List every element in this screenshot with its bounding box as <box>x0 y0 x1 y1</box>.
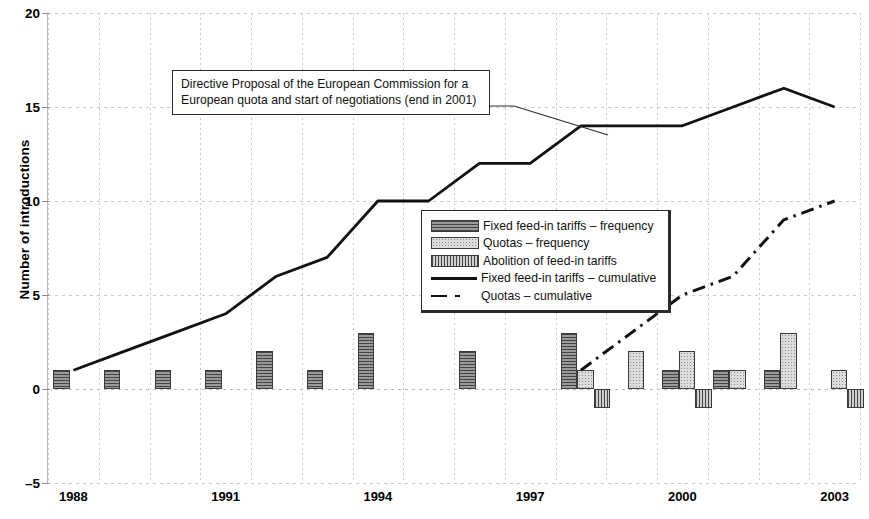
gridline-x-16 <box>860 13 861 483</box>
legend-label-abol: Abolition of feed-in tariffs <box>483 254 617 268</box>
y-tick-label--5: –5 <box>4 476 40 491</box>
y-tick-mark--5 <box>42 483 49 484</box>
x-tick-label-1997: 1997 <box>516 489 545 504</box>
legend-item-dashdot: Quotas – cumulative <box>431 287 660 305</box>
legend-item-quota: Quotas – frequency <box>431 235 660 253</box>
annotation-leader-line <box>490 104 610 138</box>
gridline-y--5 <box>48 483 860 484</box>
legend-label-dashdot: Quotas – cumulative <box>481 289 592 303</box>
legend-swatch-solid-icon <box>431 273 477 283</box>
x-tick-label-2003: 2003 <box>820 489 849 504</box>
y-axis-title: Number of introductions <box>17 130 32 310</box>
legend-swatch-fixed-icon <box>431 220 479 232</box>
y-tick-label-10: 10 <box>4 194 40 209</box>
annotation-line-2: European quota and start of negotiations… <box>181 92 482 108</box>
legend-swatch-dashdot-icon <box>431 291 477 301</box>
annotation-box: Directive Proposal of the European Commi… <box>172 70 490 115</box>
legend-item-abol: Abolition of feed-in tariffs <box>431 252 660 270</box>
x-tick-label-1991: 1991 <box>211 489 240 504</box>
x-tick-label-1994: 1994 <box>363 489 392 504</box>
chart-root: Number of introductions –505101520 19881… <box>0 0 869 519</box>
legend-label-quota: Quotas – frequency <box>483 236 589 250</box>
annotation-line-1: Directive Proposal of the European Commi… <box>181 76 482 92</box>
y-tick-label-0: 0 <box>4 382 40 397</box>
y-tick-label-20: 20 <box>4 6 40 21</box>
legend-item-solid: Fixed feed-in tariffs – cumulative <box>431 270 660 288</box>
y-tick-label-5: 5 <box>4 288 40 303</box>
x-tick-label-2000: 2000 <box>668 489 697 504</box>
x-tick-label-1988: 1988 <box>59 489 88 504</box>
legend-swatch-abol-icon <box>431 255 479 267</box>
legend-label-solid: Fixed feed-in tariffs – cumulative <box>481 271 656 285</box>
legend-swatch-quota-icon <box>431 237 479 249</box>
legend-label-fixed: Fixed feed-in tariffs – frequency <box>483 219 654 233</box>
chart-legend: Fixed feed-in tariffs – frequencyQuotas … <box>421 210 671 313</box>
legend-item-fixed: Fixed feed-in tariffs – frequency <box>431 217 660 235</box>
y-tick-label-15: 15 <box>4 100 40 115</box>
